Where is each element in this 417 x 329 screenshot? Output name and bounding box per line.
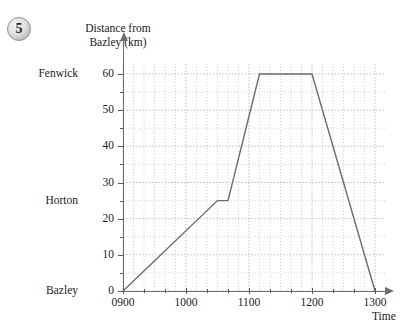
x-tick [312,288,313,294]
y-tick-label: 0 [84,285,114,297]
y-tick-label: 10 [84,249,114,261]
y-tick-label: 60 [84,68,114,80]
x-tick [186,288,187,294]
x-tick [375,288,376,294]
y-tick-minor [120,164,124,165]
x-tick-minor [144,289,145,293]
x-tick [249,288,250,294]
place-label-bazley: Bazley [6,285,78,297]
worksheet-figure: 5 Distance from Bazley (km) 010203040506… [0,0,417,329]
y-tick [118,110,124,111]
y-tick [118,74,124,75]
x-axis-line [123,291,385,292]
x-tick-label: 1000 [163,297,209,309]
place-label-fenwick: Fenwick [6,68,78,80]
x-tick-minor [333,289,334,293]
y-tick [118,255,124,256]
x-tick-label: 1100 [226,297,272,309]
y-tick-label: 20 [84,213,114,225]
y-tick-minor [120,201,124,202]
y-tick-label: 50 [84,104,114,116]
x-tick-label: 1200 [289,297,335,309]
y-tick-label: 40 [84,140,114,152]
y-tick [118,219,124,220]
x-tick-minor [165,289,166,293]
x-tick [123,288,124,294]
y-axis-arrow-icon [120,32,128,41]
x-tick-minor [207,289,208,293]
y-tick-minor [120,237,124,238]
y-tick-label: 30 [84,177,114,189]
x-tick-label: 0900 [100,297,146,309]
x-axis-arrow-icon [385,287,394,295]
y-tick [118,146,124,147]
x-tick-minor [270,289,271,293]
x-tick-minor [291,289,292,293]
place-label-horton: Horton [6,195,78,207]
x-tick-label: 1300 [352,297,398,309]
y-tick [118,183,124,184]
y-tick-minor [120,128,124,129]
y-tick-minor [120,273,124,274]
x-tick-minor [228,289,229,293]
chart-plot-area [0,0,417,329]
x-tick-minor [354,289,355,293]
x-axis-title: Time [372,310,396,322]
y-tick-minor [120,92,124,93]
